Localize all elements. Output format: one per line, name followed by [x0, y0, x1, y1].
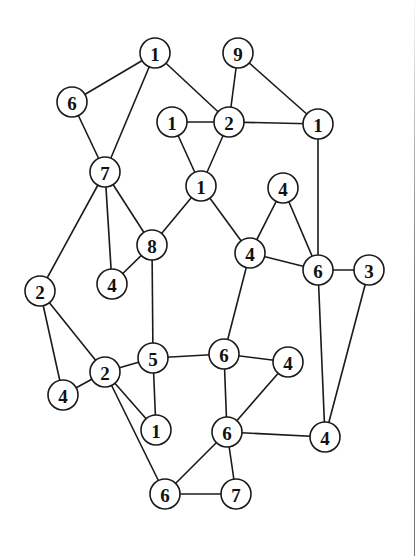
- graph-node: 6: [150, 479, 180, 509]
- graph-node: 4: [48, 380, 78, 410]
- graph-node: 4: [310, 422, 340, 452]
- graph-node: 1: [157, 107, 187, 137]
- graph-node: 6: [212, 417, 242, 447]
- edge-B-F: [238, 53, 318, 124]
- node-label: 1: [150, 44, 160, 65]
- node-label: 6: [313, 261, 323, 282]
- graph-node: 4: [97, 269, 127, 299]
- graph-node: 2: [214, 107, 244, 137]
- node-label: 1: [151, 421, 161, 442]
- graph-node: 5: [138, 343, 168, 373]
- node-label: 5: [148, 349, 158, 370]
- graph-node: 1: [186, 171, 216, 201]
- graph-diagram: 1961217148463425642416467: [0, 0, 418, 556]
- node-label: 7: [231, 485, 241, 506]
- edge-M-W: [325, 270, 369, 437]
- node-label: 4: [107, 275, 117, 296]
- node-label: 1: [196, 177, 206, 198]
- graph-node: 9: [223, 38, 253, 68]
- node-label: 2: [100, 363, 110, 384]
- graph-node: 4: [273, 347, 303, 377]
- edge-J-P: [152, 245, 153, 358]
- node-label: 2: [35, 282, 45, 303]
- graph-node: 3: [354, 255, 384, 285]
- node-label: 6: [67, 93, 77, 114]
- node-label: 4: [245, 244, 255, 265]
- edge-G-O: [40, 172, 105, 291]
- node-label: 3: [364, 261, 374, 282]
- node-label: 6: [219, 345, 229, 366]
- graph-node: 8: [137, 230, 167, 260]
- node-label: 6: [160, 485, 170, 506]
- page-edge-divider: [414, 0, 415, 556]
- graph-node: 7: [221, 479, 251, 509]
- graph-node: 6: [303, 255, 333, 285]
- node-label: 8: [147, 236, 157, 257]
- graph-node: 4: [268, 173, 298, 203]
- edge-G-N: [105, 172, 112, 284]
- graph-node: 7: [90, 157, 120, 187]
- node-label: 1: [313, 115, 323, 136]
- node-label: 6: [222, 423, 232, 444]
- edge-L-W: [318, 270, 325, 437]
- node-label: 9: [233, 44, 243, 65]
- graph-node: 6: [57, 87, 87, 117]
- nodes-layer: 1961217148463425642416467: [25, 38, 384, 509]
- graph-node: 2: [90, 357, 120, 387]
- graph-node: 6: [209, 339, 239, 369]
- node-label: 7: [100, 163, 110, 184]
- graph-node: 1: [303, 109, 333, 139]
- node-label: 4: [58, 386, 68, 407]
- graph-node: 4: [235, 238, 265, 268]
- node-label: 4: [278, 179, 288, 200]
- node-label: 4: [283, 353, 293, 374]
- node-label: 2: [224, 113, 234, 134]
- graph-node: 2: [25, 276, 55, 306]
- node-label: 1: [167, 113, 177, 134]
- graph-node: 1: [140, 38, 170, 68]
- edge-A-G: [105, 53, 155, 172]
- graph-node: 1: [141, 415, 171, 445]
- node-label: 4: [320, 428, 330, 449]
